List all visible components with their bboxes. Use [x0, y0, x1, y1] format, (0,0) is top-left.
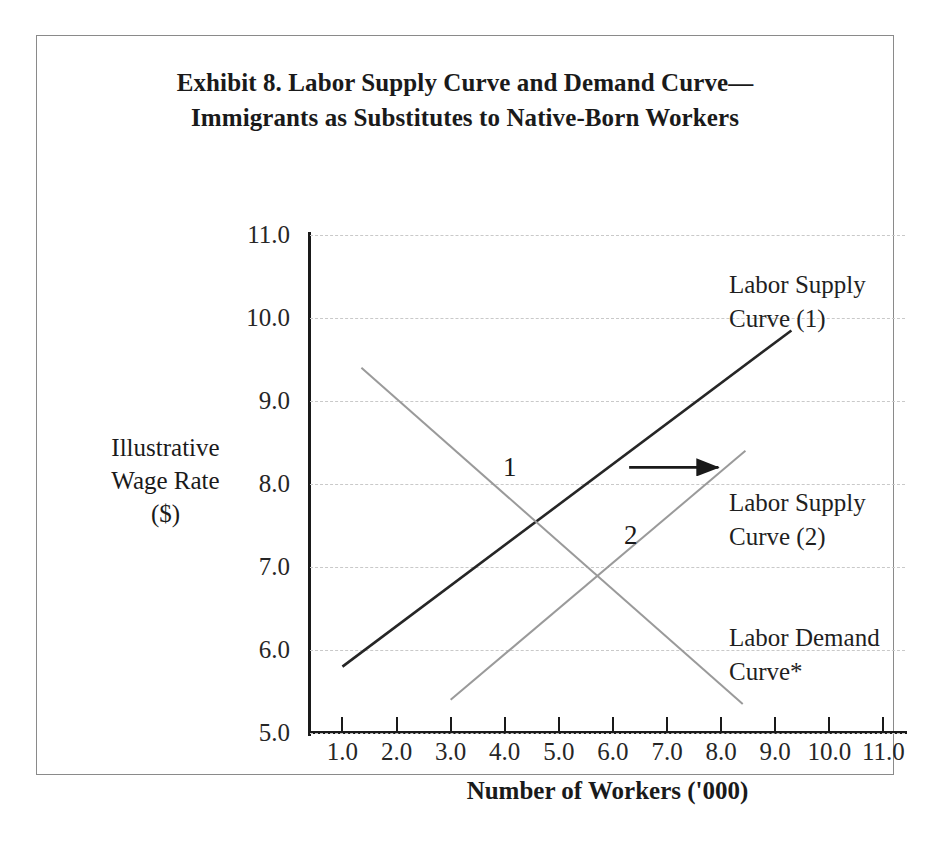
figure-frame: Exhibit 8. Labor Supply Curve and Demand…: [36, 35, 894, 775]
x-axis-title: Number of Workers ('000): [310, 777, 905, 805]
y-tick-label-5.0: 5.0: [210, 719, 290, 747]
chart-title-line-1: Exhibit 8. Labor Supply Curve and Demand…: [37, 66, 893, 101]
gridline-y-11.0: [310, 235, 905, 236]
x-tick-label-11.0: 11.0: [838, 738, 928, 766]
annotation-supply-1-line-1: Labor Supply: [729, 268, 866, 302]
annotation-labor-supply-curve-2: Labor Supply Curve (2): [729, 486, 866, 553]
y-tick-label-8.0: 8.0: [210, 470, 290, 498]
chart-title-line-2: Immigrants as Substitutes to Native-Born…: [37, 101, 893, 136]
annotation-supply-2-line-1: Labor Supply: [729, 486, 866, 520]
gridline-y-9.0: [310, 401, 905, 402]
annotation-demand-line-2: Curve*: [729, 655, 880, 689]
x-axis-ticks: [310, 717, 905, 733]
x-tick-8.0: [720, 717, 722, 732]
chart-title: Exhibit 8. Labor Supply Curve and Demand…: [37, 66, 893, 135]
annotation-demand-line-1: Labor Demand: [729, 621, 880, 655]
equilibrium-label-2: 2: [624, 520, 638, 551]
annotation-supply-2-line-2: Curve (2): [729, 520, 866, 554]
x-tick-9.0: [774, 717, 776, 732]
y-axis-tick-labels: 5.06.07.08.09.010.011.0: [210, 235, 290, 733]
annotation-supply-1-line-2: Curve (1): [729, 302, 866, 336]
x-axis-tick-labels: 1.02.03.04.05.06.07.08.09.010.011.0: [310, 738, 905, 772]
annotation-labor-supply-curve-1: Labor Supply Curve (1): [729, 268, 866, 335]
y-tick-label-6.0: 6.0: [210, 636, 290, 664]
x-tick-3.0: [450, 717, 452, 732]
gridline-y-8.0: [310, 484, 905, 485]
gridline-y-5.0: [310, 733, 905, 734]
x-tick-7.0: [666, 717, 668, 732]
x-tick-1.0: [341, 717, 343, 732]
x-tick-11.0: [882, 717, 884, 732]
x-tick-6.0: [612, 717, 614, 732]
gridline-y-7.0: [310, 567, 905, 568]
y-tick-label-9.0: 9.0: [210, 387, 290, 415]
annotation-labor-demand-curve: Labor Demand Curve*: [729, 621, 880, 688]
y-tick-label-7.0: 7.0: [210, 553, 290, 581]
x-tick-10.0: [828, 717, 830, 732]
x-tick-2.0: [396, 717, 398, 732]
y-tick-label-11.0: 11.0: [210, 221, 290, 249]
x-tick-5.0: [558, 717, 560, 732]
y-tick-label-10.0: 10.0: [210, 304, 290, 332]
equilibrium-label-1: 1: [503, 452, 517, 483]
x-tick-4.0: [504, 717, 506, 732]
